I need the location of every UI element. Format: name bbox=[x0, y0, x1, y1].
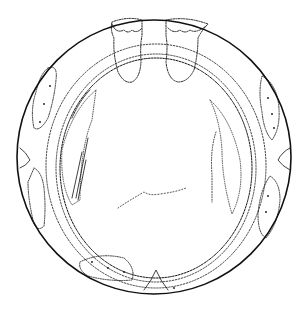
illustration-canvas bbox=[0, 0, 308, 314]
left-drapery bbox=[62, 90, 96, 205]
medallion-drawing bbox=[0, 0, 308, 314]
body-line bbox=[118, 188, 186, 208]
staff bbox=[76, 138, 88, 198]
outer-rim bbox=[17, 20, 291, 294]
left-foot bbox=[111, 18, 142, 82]
right-drapery bbox=[210, 100, 241, 214]
inner-band-inner bbox=[56, 54, 256, 282]
